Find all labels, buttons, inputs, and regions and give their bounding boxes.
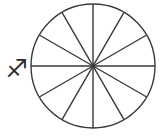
- zodiac-sector-diagram: ♐: [0, 0, 161, 136]
- figure-container: ♐: [0, 0, 161, 136]
- sagittarius-icon: ♐: [6, 54, 28, 83]
